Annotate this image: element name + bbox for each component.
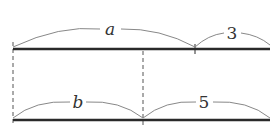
- segment-diagram: a 3 b 5: [0, 0, 270, 138]
- arc-3-left: [195, 33, 224, 47]
- label-3: 3: [227, 23, 238, 43]
- arc-a: [13, 28, 100, 47]
- label-a: a: [105, 19, 115, 39]
- arc-5-left: [143, 102, 196, 118]
- arc-3-right: [241, 33, 270, 45]
- arc-b-left: [13, 102, 70, 118]
- arc-b-right: [86, 102, 143, 118]
- label-5: 5: [199, 92, 210, 112]
- arc-5-right: [213, 102, 270, 118]
- arc-a-right: [121, 29, 195, 47]
- label-b: b: [73, 92, 84, 112]
